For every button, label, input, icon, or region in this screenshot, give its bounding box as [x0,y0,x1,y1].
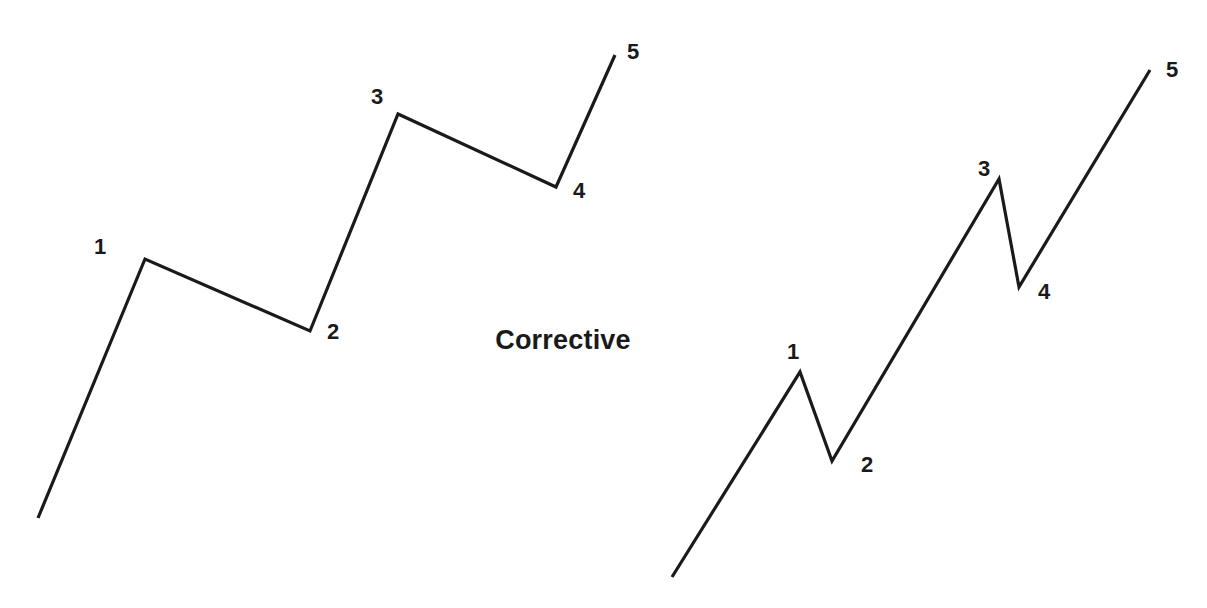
left-wave-label-3: 3 [371,86,383,108]
right-wave-label-1: 1 [787,341,799,363]
left-wave-polyline [38,55,615,518]
left-wave-label-5: 5 [627,41,639,63]
left-wave-label-2: 2 [327,321,339,343]
right-wave-label-2: 2 [861,454,873,476]
left-wave-label-4: 4 [573,180,585,202]
right-wave-polyline [672,70,1150,577]
corrective-caption: Corrective [495,327,631,354]
right-wave-label-5: 5 [1166,59,1178,81]
figure-canvas: 1 2 3 4 5 Corrective 1 2 3 4 5 [0,0,1207,608]
left-wave-label-1: 1 [94,236,106,258]
wave-diagram-svg [0,0,1207,608]
right-wave-label-4: 4 [1038,281,1050,303]
right-wave-label-3: 3 [978,158,990,180]
